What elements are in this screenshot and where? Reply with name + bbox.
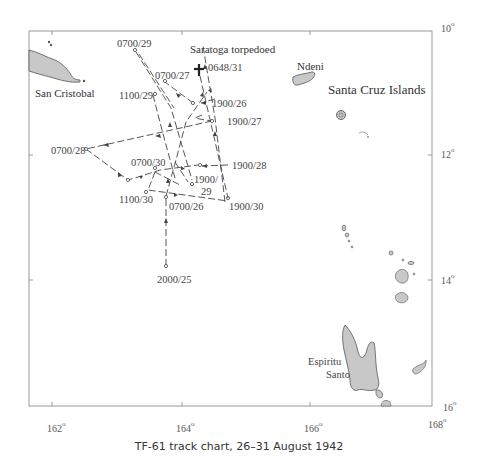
label-ndeni: Ndeni bbox=[297, 61, 324, 72]
label-1900-28: 1900/28 bbox=[232, 161, 266, 172]
lon-value: 168 bbox=[428, 419, 443, 430]
label-2000-25: 2000/25 bbox=[157, 275, 191, 286]
lon-label-168: 168o bbox=[428, 420, 447, 430]
islet bbox=[83, 80, 85, 82]
islet bbox=[367, 136, 369, 138]
degree-mark: o bbox=[451, 20, 455, 28]
label-1900-29-line2: 29 bbox=[201, 187, 212, 198]
degree-mark: o bbox=[451, 272, 455, 280]
label-0700-27: 0700/27 bbox=[155, 71, 189, 82]
lat-value: 14 bbox=[441, 275, 451, 286]
island-malo bbox=[376, 390, 383, 398]
figure-caption: TF-61 track chart, 26–31 August 1942 bbox=[0, 440, 478, 453]
degree-mark: o bbox=[191, 420, 195, 428]
saratoga-torpedoed-marker bbox=[194, 64, 204, 76]
lat-label-16: 16o bbox=[443, 403, 457, 413]
label-saratoga-torpedoed: Saratoga torpedoed bbox=[190, 44, 275, 55]
island-vanikoro bbox=[359, 132, 368, 135]
islet bbox=[50, 44, 52, 46]
lat-label-10: 10o bbox=[441, 24, 455, 34]
island-ambae bbox=[381, 400, 391, 406]
island-san-cristobal bbox=[29, 50, 80, 82]
degree-mark: o bbox=[453, 399, 457, 407]
label-santa-cruz-islands: Santa Cruz Islands bbox=[328, 83, 425, 96]
lon-value: 166 bbox=[304, 423, 319, 434]
label-1100-30: 1100/30 bbox=[119, 195, 153, 206]
island-ndeni bbox=[293, 72, 315, 85]
label-1900-29-line1: 1900/ bbox=[194, 175, 218, 186]
degree-mark: o bbox=[451, 146, 455, 154]
label-1900-30: 1900/30 bbox=[229, 202, 263, 213]
lat-label-12: 12o bbox=[441, 150, 455, 160]
lat-label-14: 14o bbox=[441, 276, 455, 286]
label-saratoga-time: 0648/31 bbox=[208, 63, 242, 74]
lat-value: 12 bbox=[441, 149, 451, 160]
island-chain-banks bbox=[342, 225, 415, 303]
label-0700-30: 0700/30 bbox=[131, 158, 165, 169]
degree-mark: o bbox=[319, 420, 323, 428]
lon-value: 162 bbox=[47, 423, 62, 434]
lon-label-166: 166o bbox=[304, 424, 323, 434]
degree-mark: o bbox=[443, 416, 447, 424]
lon-value: 164 bbox=[176, 423, 191, 434]
label-espiritu: Espiritu bbox=[308, 357, 341, 368]
label-1900-27: 1900/27 bbox=[227, 117, 261, 128]
lat-value: 16 bbox=[443, 402, 453, 413]
label-0700-28: 0700/28 bbox=[51, 146, 85, 157]
island-maewo bbox=[413, 360, 427, 374]
island-espiritu-santo bbox=[343, 325, 379, 391]
degree-mark: o bbox=[62, 420, 66, 428]
label-santo: Santo bbox=[326, 370, 350, 381]
island-utupua bbox=[337, 111, 346, 120]
label-0700-26: 0700/26 bbox=[169, 202, 203, 213]
lon-label-162: 162o bbox=[47, 424, 66, 434]
label-1900-26: 1900/26 bbox=[212, 99, 246, 110]
label-0700-29: 0700/29 bbox=[117, 39, 151, 50]
islet bbox=[48, 41, 50, 43]
lon-label-164: 164o bbox=[176, 424, 195, 434]
label-san-cristobal: San Cristobal bbox=[35, 88, 95, 99]
lat-value: 10 bbox=[441, 23, 451, 34]
label-1100-29: 1100/29 bbox=[119, 91, 153, 102]
